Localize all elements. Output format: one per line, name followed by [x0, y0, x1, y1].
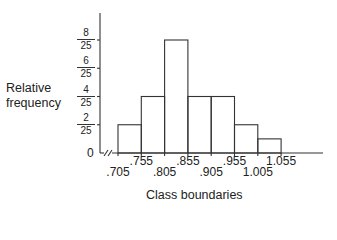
histogram-bar: [141, 97, 164, 154]
axis-break-mark: [104, 150, 108, 156]
x-tick-label: .705: [106, 166, 129, 178]
histogram-bar: [211, 97, 234, 154]
x-tick-label: 1.055: [266, 155, 296, 167]
x-tick-label: .755: [130, 155, 153, 167]
axis-break-mark: [108, 150, 112, 156]
x-tick-label: .805: [153, 166, 176, 178]
x-tick-label: .905: [200, 166, 223, 178]
histogram-bar: [118, 125, 141, 153]
histogram-bar: [188, 97, 211, 154]
x-tick-label: .855: [176, 155, 199, 167]
histogram-bar: [165, 40, 188, 153]
histogram-bar: [235, 125, 258, 153]
x-axis-title: Class boundaries: [146, 188, 243, 202]
histogram-bar: [258, 139, 281, 153]
